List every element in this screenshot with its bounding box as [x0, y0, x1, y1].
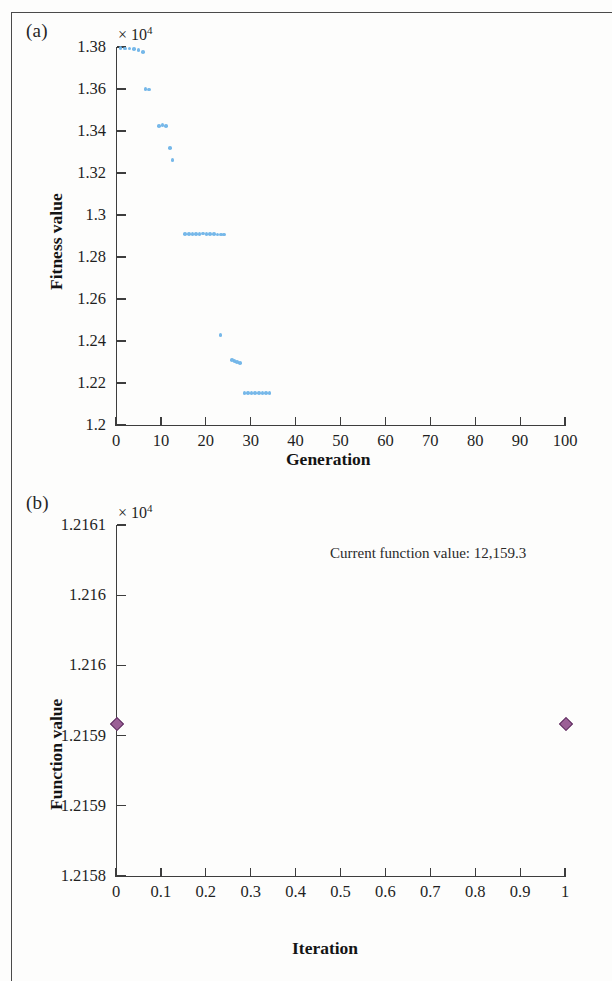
- panel-b-y-exponent: × 104: [118, 502, 153, 522]
- y-tick-label: 1.22: [77, 373, 106, 393]
- data-point: [137, 48, 141, 52]
- y-tick-label: 1.34: [77, 121, 106, 141]
- panel-a-label: (a): [26, 20, 48, 42]
- y-axis-spine: [116, 47, 117, 426]
- y-tick: [117, 340, 126, 341]
- panel-a-y-axis-title: Fitness value: [46, 193, 67, 290]
- data-point: [268, 391, 272, 395]
- y-tick-label: 1.36: [77, 79, 106, 99]
- y-tick: [117, 298, 126, 299]
- x-tick: [340, 417, 341, 426]
- x-tick: [430, 868, 431, 877]
- x-tick: [250, 417, 251, 426]
- panel-b-x-axis-title: Iteration: [292, 938, 358, 959]
- data-point: [171, 158, 175, 162]
- data-point: [558, 717, 572, 731]
- data-point: [109, 717, 123, 731]
- panel-b-label: (b): [26, 492, 49, 514]
- x-tick: [564, 417, 565, 426]
- data-point: [128, 47, 132, 51]
- y-tick-label: 1.2161: [61, 515, 106, 535]
- y-tick-label: 1.2159: [61, 726, 106, 746]
- y-tick: [117, 214, 126, 215]
- y-tick: [117, 595, 126, 596]
- panel-b-annotation: Current function value: 12,159.3: [330, 545, 526, 562]
- y-tick-label: 1.24: [77, 331, 106, 351]
- panel-b: (b) × 104 1.21581.21591.21591.2161.2161.…: [0, 480, 612, 981]
- y-tick: [117, 172, 126, 173]
- data-point: [168, 146, 172, 150]
- x-tick-label: 100: [535, 431, 595, 451]
- y-tick: [117, 524, 126, 525]
- data-point: [141, 50, 145, 54]
- data-point: [222, 233, 226, 237]
- plot-area-a: 1.21.221.241.261.281.31.321.341.361.3801…: [116, 47, 565, 425]
- y-tick-label: 1.28: [77, 247, 106, 267]
- panel-a-y-exponent: × 104: [118, 24, 153, 44]
- x-tick: [564, 868, 565, 877]
- x-tick: [520, 417, 521, 426]
- y-tick: [117, 875, 126, 876]
- y-tick-label: 1.26: [77, 289, 106, 309]
- data-point: [187, 232, 191, 236]
- data-point: [119, 46, 123, 50]
- panel-b-y-axis-title: Function value: [46, 699, 67, 810]
- x-tick: [430, 417, 431, 426]
- y-tick-label: 1.216: [69, 655, 106, 675]
- x-tick: [115, 868, 116, 877]
- data-point: [164, 124, 168, 128]
- y-tick-label: 1.2159: [61, 796, 106, 816]
- x-tick: [205, 417, 206, 426]
- data-point: [123, 47, 127, 51]
- data-point: [147, 88, 151, 92]
- x-tick-label: 1: [535, 882, 595, 902]
- y-tick: [117, 256, 126, 257]
- x-tick: [115, 417, 116, 426]
- x-tick: [475, 868, 476, 877]
- y-tick-label: 1.216: [69, 585, 106, 605]
- x-tick: [340, 868, 341, 877]
- y-tick: [117, 805, 126, 806]
- x-tick: [475, 417, 476, 426]
- y-tick: [117, 665, 126, 666]
- data-point: [238, 361, 242, 365]
- x-tick: [160, 417, 161, 426]
- x-tick: [250, 868, 251, 877]
- data-point: [219, 333, 223, 337]
- panel-a: (a) × 104 1.21.221.241.261.281.31.321.34…: [0, 0, 612, 480]
- y-tick: [117, 382, 126, 383]
- y-tick: [117, 735, 126, 736]
- plot-area-b: 1.21581.21591.21591.2161.2161.216100.10.…: [116, 525, 565, 876]
- panel-a-x-axis-title: Generation: [286, 449, 371, 470]
- x-tick: [385, 868, 386, 877]
- x-tick: [295, 417, 296, 426]
- y-tick: [117, 88, 126, 89]
- y-tick: [117, 424, 126, 425]
- y-tick: [117, 130, 126, 131]
- y-tick-label: 1.3: [85, 205, 106, 225]
- y-tick-label: 1.32: [77, 163, 106, 183]
- x-tick: [520, 868, 521, 877]
- figure-page: (a) × 104 1.21.221.241.261.281.31.321.34…: [0, 0, 612, 981]
- x-tick: [205, 868, 206, 877]
- data-point: [132, 47, 136, 51]
- x-tick: [385, 417, 386, 426]
- x-tick: [295, 868, 296, 877]
- y-axis-spine: [116, 525, 117, 877]
- y-tick-label: 1.38: [77, 37, 106, 57]
- x-tick: [160, 868, 161, 877]
